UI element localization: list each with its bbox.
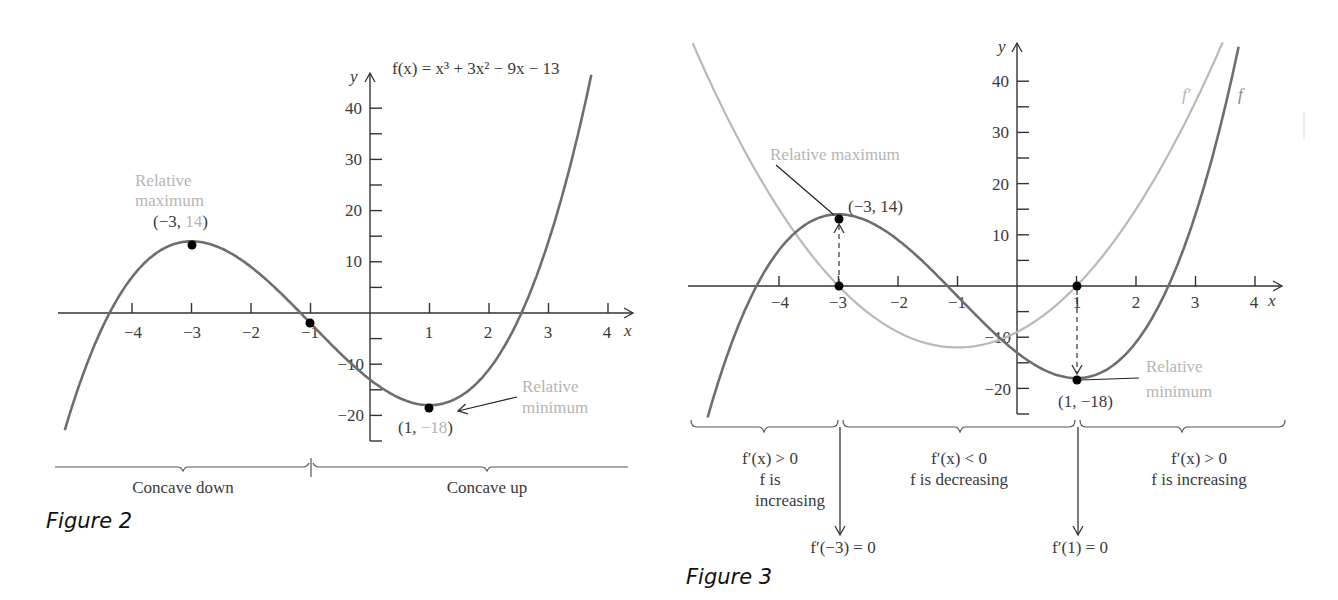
fig3-ytick-label: 40	[992, 72, 1009, 91]
fig3-x-axis-label: x	[1267, 291, 1276, 310]
fig2-xtick-label: 2	[484, 323, 493, 342]
fig3-xtick-label: 4	[1250, 293, 1259, 312]
fig3-caption: Figure 3	[686, 565, 772, 589]
fig2-y-axis-label: y	[348, 67, 358, 86]
fig3-fprime-curve-label: f′	[1182, 85, 1191, 104]
fig3-interval1-line2: f is	[759, 470, 780, 489]
fig2-xtick-label: 4	[603, 323, 612, 342]
fig2-ytick-label: 20	[345, 201, 362, 220]
fig2-min-label-line1: Relative	[522, 377, 579, 396]
fig2-x-axis-label: x	[623, 321, 632, 340]
fig3-brace-interval3	[1080, 420, 1285, 432]
fig3-y-axis-label: y	[996, 37, 1006, 56]
fig3-ytick-label: 10	[992, 226, 1009, 245]
fig3-interval3-line1: f′(x) > 0	[1171, 449, 1227, 468]
fig2-min-label-line2: minimum	[522, 398, 588, 417]
fig2-concave-up-label: Concave up	[447, 478, 528, 497]
fig2-concave-up-brace	[313, 463, 628, 471]
fig2-min-point	[425, 404, 434, 413]
fig3-brace-interval1	[691, 420, 838, 432]
fig3-max-point	[835, 215, 844, 224]
fig3-min-label-line1: Relative	[1146, 357, 1203, 376]
fig3-fprime-zero-point-neg3	[835, 282, 844, 291]
fig3-interval2-line1: f′(x) < 0	[931, 449, 987, 468]
fig2-ytick-label: 40	[345, 99, 362, 118]
figure-2: −4 −3 −2 −1 1 2 3 4 x 40 30 20 10 −10 −2…	[46, 59, 633, 533]
fig2-ytick-label: 30	[345, 150, 362, 169]
fig3-xtick-label: −3	[829, 293, 847, 312]
fig2-ytick-label: 10	[345, 252, 362, 271]
fig3-xtick-label: −2	[890, 293, 908, 312]
fig3-xtick-label: −4	[771, 293, 790, 312]
fig2-xtick-label: −3	[183, 323, 201, 342]
fig2-max-coord: (−3, 14)	[153, 212, 208, 231]
fig3-f-curve-label: f	[1238, 85, 1245, 104]
fig3-interval1-line3: increasing	[755, 491, 825, 510]
fig3-ytick-label: −20	[984, 380, 1011, 399]
fig3-min-coord: (1, −18)	[1058, 392, 1113, 411]
fig3-interval1-line1: f′(x) > 0	[742, 449, 798, 468]
fig3-interval2-line2: f is decreasing	[910, 470, 1009, 489]
fig2-max-label-line1: Relative	[135, 171, 192, 190]
fig3-max-coord: (−3, 14)	[848, 197, 903, 216]
fig3-min-pointer	[1080, 378, 1139, 380]
fig3-min-label-line2: minimum	[1146, 382, 1212, 401]
fig2-max-label-line2: maximum	[135, 191, 204, 210]
fig3-critical-label-neg3: f′(−3) = 0	[810, 538, 875, 557]
fig3-xtick-label: 2	[1132, 293, 1141, 312]
fig2-concave-down-label: Concave down	[132, 478, 234, 497]
fig2-min-pointer-arrow	[458, 397, 517, 411]
fig2-xtick-label: −2	[242, 323, 260, 342]
fig3-ytick-label: 20	[992, 175, 1009, 194]
fig3-critical-label-1: f′(1) = 0	[1052, 538, 1108, 557]
fig2-caption: Figure 2	[46, 509, 132, 533]
figure-3: −4 −3 −2 −1 1 2 3 4 x 40 30 20 10 −10 −2…	[686, 37, 1304, 589]
fig3-brace-interval2	[843, 420, 1075, 432]
fig3-ytick-label: 30	[992, 123, 1009, 142]
fig2-min-coord: (1, −18)	[398, 418, 453, 437]
fig2-concave-down-brace	[55, 463, 309, 471]
fig3-fprime-zero-point-1	[1073, 282, 1082, 291]
fig2-xtick-label: 3	[544, 323, 553, 342]
fig2-xtick-label: 1	[425, 323, 434, 342]
fig3-max-pointer	[776, 165, 834, 215]
fig3-interval3-line2: f is increasing	[1151, 470, 1247, 489]
fig2-ytick-label: −20	[337, 406, 364, 425]
fig3-max-label: Relative maximum	[770, 145, 900, 164]
fig2-f-curve	[65, 75, 592, 430]
fig2-max-point	[188, 241, 197, 250]
fig2-xtick-label: −4	[124, 323, 143, 342]
fig2-inflection-point	[306, 319, 315, 328]
fig3-xtick-label: 3	[1191, 293, 1200, 312]
fig2-equation: f(x) = x³ + 3x² − 9x − 13	[392, 59, 560, 78]
figures-canvas: −4 −3 −2 −1 1 2 3 4 x 40 30 20 10 −10 −2…	[0, 0, 1338, 600]
